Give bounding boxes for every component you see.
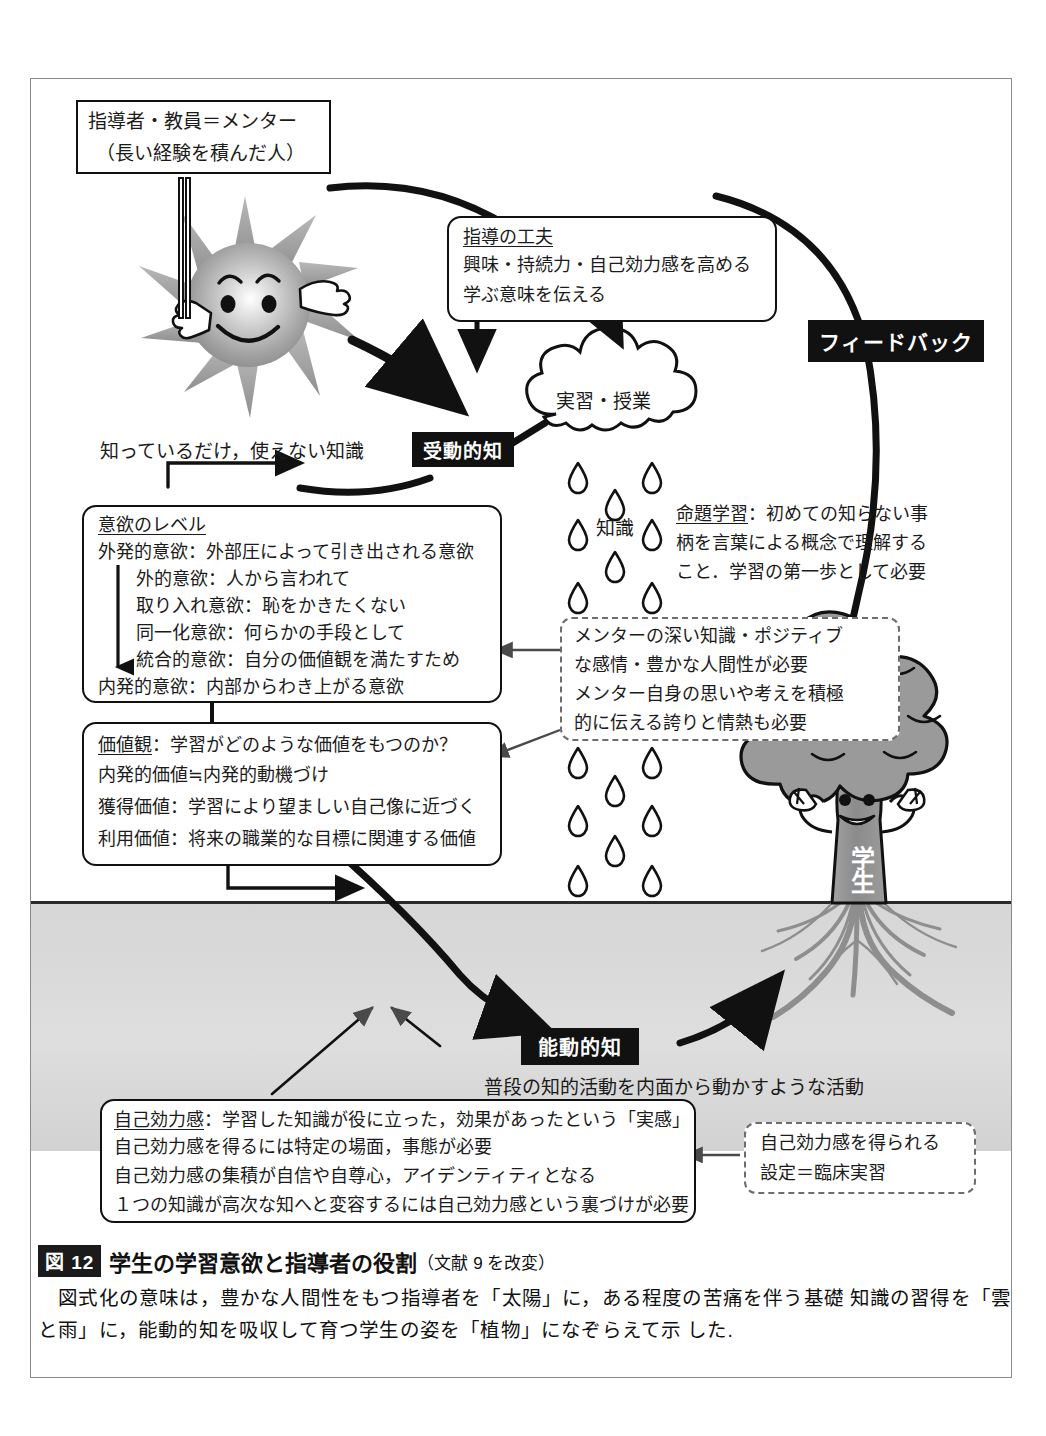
figure-source: （文献 9 を改変） bbox=[417, 1254, 555, 1273]
teaching-methods-line2: 学ぶ意味を伝える bbox=[463, 282, 606, 309]
mentor-req-line2: な感情・豊かな人間性が必要 bbox=[574, 652, 808, 679]
clinical-setting-line1: 自己効力感を得られる bbox=[760, 1130, 940, 1157]
mentor-sign-line2: （長い経験を積んだ人） bbox=[96, 140, 305, 169]
motivation-line3: 取り入れ意欲：恥をかきたくない bbox=[136, 593, 406, 620]
caption-body: 図式化の意味は，豊かな人間性をもつ指導者を「太陽」に，ある程度の苦痛を伴う基礎 … bbox=[38, 1283, 1013, 1346]
figure-number-badge: 図 12 bbox=[38, 1245, 101, 1277]
mentor-sign-box: 指導者・教員＝メンター （長い経験を積んだ人） bbox=[76, 100, 331, 174]
values-line4: 利用価値：将来の職業的な目標に関連する価値 bbox=[98, 826, 476, 853]
passive-knowledge-label: 受動的知 bbox=[423, 436, 503, 463]
mentor-req-line1: メンターの深い知識・ポジティブ bbox=[574, 623, 843, 650]
values-line1: ：学習がどのような価値をもつのか？ bbox=[152, 735, 457, 755]
motivation-levels-box: 意欲のレベル 外発的意欲：外部圧によって引き出される意欲 外的意欲：人から言われ… bbox=[82, 505, 502, 703]
passive-knowledge-note: 知っているだけ，使えない知識 bbox=[100, 438, 364, 466]
self-efficacy-line2: 自己効力感を得るには特定の場面，事態が必要 bbox=[114, 1134, 492, 1161]
feedback-badge: フィードバック bbox=[808, 320, 984, 362]
passive-knowledge-badge: 受動的知 bbox=[412, 432, 514, 467]
self-efficacy-line3: 自己効力感の集積が自信や自尊心，アイデンティティとなる bbox=[114, 1163, 596, 1190]
motivation-down-arrow-icon bbox=[110, 563, 134, 683]
teaching-methods-heading: 指導の工夫 bbox=[463, 224, 553, 251]
rain-knowledge-label: 知識 bbox=[596, 515, 634, 543]
figure-page: 指導者・教員＝メンター （長い経験を積んだ人） 指導の工夫 興味・持続力・自己効… bbox=[0, 0, 1046, 1436]
teaching-methods-line1: 興味・持続力・自己効力感を高める bbox=[463, 252, 751, 279]
propositional-learning-heading: 命題学習 bbox=[676, 504, 748, 524]
values-line3: 獲得価値：学習により望ましい自己像に近づく bbox=[98, 794, 476, 821]
values-line2: 内発的価値≒内発的動機づけ bbox=[98, 762, 329, 789]
figure-caption: 図 12学生の学習意欲と指導者の役割（文献 9 を改変） 図式化の意味は，豊かな… bbox=[38, 1245, 1013, 1346]
caption-title-row: 図 12学生の学習意欲と指導者の役割（文献 9 を改変） bbox=[38, 1245, 1013, 1277]
clinical-setting-box: 自己効力感を得られる 設定＝臨床実習 bbox=[744, 1122, 976, 1194]
figure-title: 学生の学習意欲と指導者の役割 bbox=[109, 1251, 417, 1276]
propositional-learning-note: 命題学習：初めての知らない事 柄を言葉による概念で理解する こと．学習の第一歩と… bbox=[676, 500, 976, 587]
propositional-learning-line3: こと．学習の第一歩として必要 bbox=[676, 558, 976, 587]
active-knowledge-badge: 能動的知 bbox=[521, 1028, 639, 1065]
teaching-methods-box: 指導の工夫 興味・持続力・自己効力感を高める 学ぶ意味を伝える bbox=[447, 216, 777, 322]
values-heading: 価値観 bbox=[98, 735, 152, 755]
active-knowledge-note: 普段の知的活動を内面から動かすような活動 bbox=[484, 1074, 864, 1102]
tree-student-label: 学生 bbox=[847, 846, 873, 894]
mentor-req-line4: 的に伝える誇りと情熱も必要 bbox=[574, 710, 807, 737]
mentor-req-line3: メンター自身の思いや考えを積極 bbox=[574, 681, 844, 708]
propositional-learning-line1: ：初めての知らない事 bbox=[748, 504, 928, 524]
self-efficacy-heading: 自己効力感 bbox=[114, 1110, 204, 1130]
motivation-line1: 外発的意欲：外部圧によって引き出される意欲 bbox=[98, 539, 474, 566]
cloud-label: 実習・授業 bbox=[556, 388, 651, 416]
motivation-line5: 統合的意欲：自分の価値観を満たすため bbox=[136, 647, 460, 674]
tree-student-label-text: 学生 bbox=[847, 846, 874, 894]
motivation-line4: 同一化意欲：何らかの手段として bbox=[136, 620, 405, 647]
mentor-sign-line1: 指導者・教員＝メンター bbox=[88, 108, 297, 137]
values-box: 価値観：学習がどのような価値をもつのか？ 内発的価値≒内発的動機づけ 獲得価値：… bbox=[82, 722, 502, 866]
self-efficacy-line1: ：学習した知識が役に立った，効果があったという「実感」 bbox=[204, 1110, 690, 1130]
motivation-heading: 意欲のレベル bbox=[98, 512, 206, 539]
motivation-line2: 外的意欲：人から言われて bbox=[136, 566, 350, 593]
active-knowledge-label: 能動的知 bbox=[538, 1032, 622, 1061]
propositional-learning-line2: 柄を言葉による概念で理解する bbox=[676, 529, 976, 558]
motivation-line6: 内発的意欲：内部からわき上がる意欲 bbox=[98, 674, 404, 701]
feedback-badge-label: フィードバック bbox=[819, 326, 973, 356]
self-efficacy-line4: １つの知識が高次な知へと変容するには自己効力感という裏づけが必要 bbox=[114, 1192, 689, 1219]
clinical-setting-line2: 設定＝臨床実習 bbox=[760, 1160, 886, 1187]
self-efficacy-box: 自己効力感：学習した知識が役に立った，効果があったという「実感」 自己効力感を得… bbox=[100, 1099, 696, 1223]
mentor-requirements-box: メンターの深い知識・ポジティブ な感情・豊かな人間性が必要 メンター自身の思いや… bbox=[560, 617, 900, 741]
